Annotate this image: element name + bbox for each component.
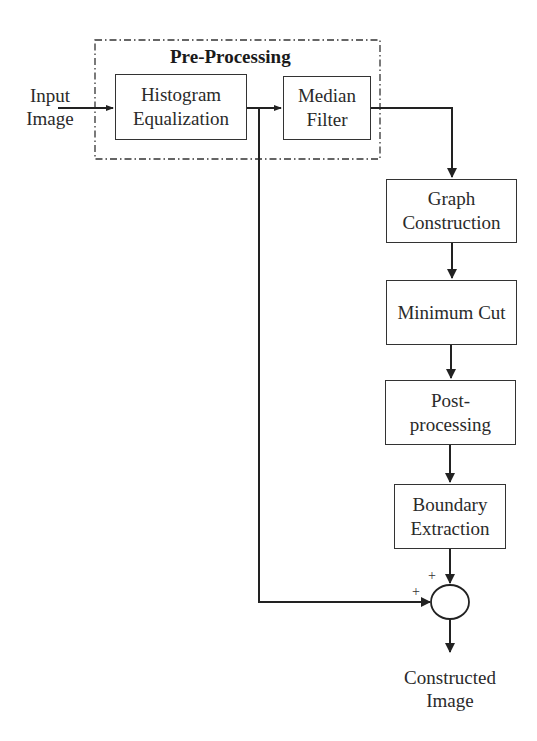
graph-construction-block: GraphConstruction <box>386 179 517 243</box>
block-line2: processing <box>410 413 491 437</box>
block-line2: Filter <box>298 108 356 132</box>
output-label-line1: Constructed <box>380 666 520 689</box>
block-line1: Median <box>298 84 356 108</box>
block-line1: Graph <box>402 187 500 211</box>
input-label: Input Image <box>20 84 80 130</box>
block-line1: Boundary <box>410 493 489 517</box>
output-label-line2: Image <box>380 689 520 712</box>
block-line1: Minimum Cut <box>397 301 505 325</box>
block-line1: Post- <box>410 389 491 413</box>
block-line2: Extraction <box>410 517 489 541</box>
block-line2: Construction <box>402 211 500 235</box>
block-line2: Equalization <box>133 107 229 131</box>
preprocessing-title: Pre-Processing <box>170 46 291 68</box>
sum-sign-left: + <box>412 584 420 600</box>
summing-junction <box>431 585 469 619</box>
boundary-extraction-block: BoundaryExtraction <box>394 484 506 549</box>
output-label: Constructed Image <box>380 666 520 712</box>
median-filter-block: MedianFilter <box>283 76 371 140</box>
post-processing-block: Post-processing <box>385 380 516 445</box>
input-label-line1: Input <box>20 84 80 107</box>
histogram-equalization-block: HistogramEqualization <box>115 74 247 140</box>
diagram-connectors <box>0 0 537 741</box>
block-line1: Histogram <box>133 83 229 107</box>
minimum-cut-block: Minimum Cut <box>386 280 517 345</box>
median-to-graph-arrow <box>371 108 452 177</box>
input-label-line2: Image <box>20 107 80 130</box>
sum-sign-top: + <box>428 568 436 584</box>
